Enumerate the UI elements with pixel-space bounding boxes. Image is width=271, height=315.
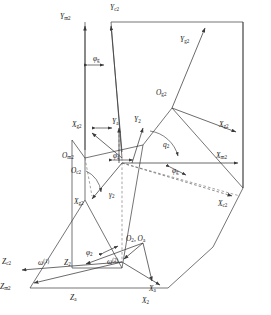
axis-label-X_c2: Xc2 [218, 200, 227, 208]
axis-label-Y_c2: Yc2 [110, 4, 119, 12]
axis-label-X_a: Xa [149, 285, 156, 293]
angle-label-phi-g-top: φg [93, 55, 100, 63]
angle-label-q2: q2 [163, 141, 169, 149]
axis-label-O_m2: Om2 [62, 152, 74, 160]
axis-label-O_2-O_a: O2, Oa [126, 235, 145, 243]
axis-label-X_m2: Xm2 [216, 152, 227, 160]
axis-label-Y_2: Y2 [134, 116, 141, 124]
angular-velocity-label-omega-1: ω(1) [38, 259, 49, 267]
angle-label-gamma-2: γ2 [109, 191, 114, 199]
axis-label-Y_m2: Ym2 [60, 13, 71, 21]
axis-label-Y_g2: Yg2 [180, 36, 189, 44]
angular-velocity-label-omega-2: ω(2) [107, 258, 118, 266]
angle-label-phi-g-mid: φg [172, 167, 179, 175]
axis-label-X_g2-lower: Xg2 [74, 198, 84, 206]
axis-label-X_g2-upper-left: Xg2 [72, 121, 82, 129]
axis-label-Z_a: Za [70, 294, 76, 302]
axis-label-O_g2: Og2 [156, 89, 166, 97]
axis-label-X_2: X2 [142, 297, 149, 305]
axis-label-Z_2: Z2 [64, 259, 71, 267]
axis-label-Z_c2: Zc2 [2, 258, 11, 266]
axis-label-Z_m2: Zm2 [0, 283, 11, 291]
axis-arrows [22, 26, 238, 285]
kinematic-diagram: Ym2 Yc2 Yg2 Xg2 Ya Y2 Og2 Xg2 Xm2 Xc2 Om… [0, 0, 271, 315]
axis-label-O_c2: Oc2 [71, 167, 81, 175]
diagram-canvas [0, 0, 271, 315]
angle-label-phi-a-origin: φa [113, 152, 119, 160]
axis-label-Y_a: Ya [112, 118, 118, 126]
axis-label-X_g2-right: Xg2 [219, 121, 229, 129]
angle-label-phi-2: φ2 [86, 249, 93, 257]
measure-ticks [88, 65, 186, 253]
